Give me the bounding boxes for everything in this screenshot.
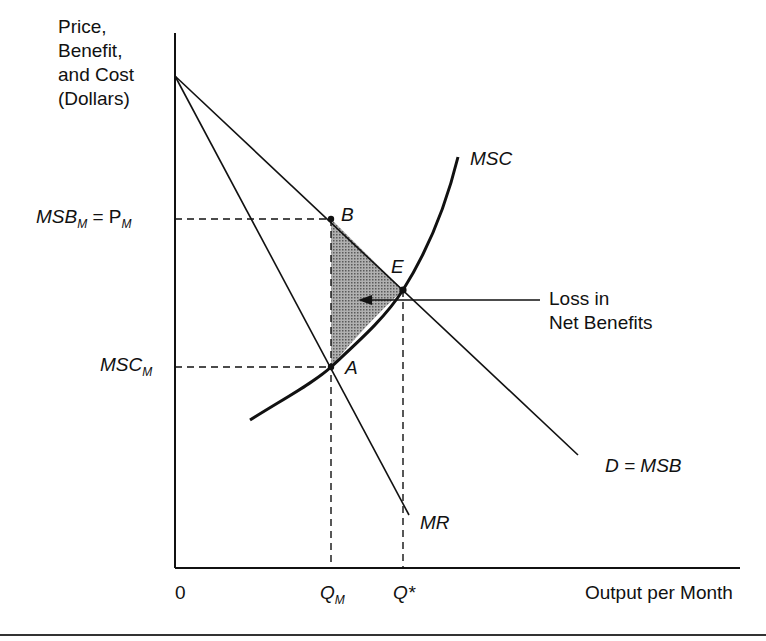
demand-msb-line <box>175 76 578 455</box>
y-axis-title-line-3: and Cost <box>58 63 178 87</box>
y-tick-pm-sub: M <box>122 217 132 231</box>
y-axis-title-line-1: Price, <box>58 15 178 39</box>
y-axis-title-line-2: Benefit, <box>58 39 178 63</box>
annotation-line-1: Loss in <box>549 287 653 311</box>
y-tick-msc-sub: M <box>142 365 152 379</box>
x-tick-qstar: Q* <box>393 582 415 604</box>
x-tick-origin: 0 <box>175 582 186 604</box>
point-a-label: A <box>345 357 358 379</box>
y-tick-msc-m: MSCM <box>100 354 152 380</box>
x-tick-qm-main: Q <box>320 582 335 603</box>
y-tick-msb-sub: M <box>77 217 87 231</box>
point-b-marker <box>328 216 334 222</box>
point-e-label: E <box>391 256 404 278</box>
y-tick-msb-m: MSBM = PM <box>36 206 132 232</box>
point-e-marker <box>399 286 406 293</box>
deadweight-loss-region <box>331 219 403 367</box>
y-axis-title-line-4: (Dollars) <box>58 87 178 111</box>
x-tick-qm: QM <box>320 582 345 608</box>
loss-in-net-benefits-annotation: Loss in Net Benefits <box>549 287 653 335</box>
point-b-label: B <box>341 204 354 226</box>
msc-curve-label: MSC <box>470 148 512 170</box>
x-tick-qm-sub: M <box>335 593 345 607</box>
y-tick-msc-main: MSC <box>100 354 142 375</box>
point-a-marker <box>328 364 334 370</box>
mr-curve-label: MR <box>420 512 450 534</box>
annotation-line-2: Net Benefits <box>549 311 653 335</box>
bottom-divider <box>0 634 766 636</box>
demand-curve-label: D = MSB <box>605 455 682 477</box>
y-axis-title: Price, Benefit, and Cost (Dollars) <box>58 15 178 111</box>
y-tick-msb-eq: = P <box>87 206 121 227</box>
y-tick-msb-main: MSB <box>36 206 77 227</box>
x-axis-title: Output per Month <box>585 582 733 604</box>
